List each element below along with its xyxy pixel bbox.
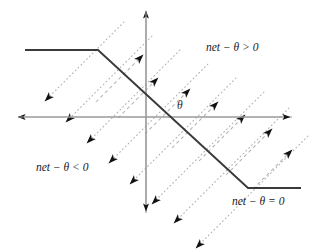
gradient-arrow-dotted [109, 64, 208, 163]
gradient-arrow-dashed [118, 78, 158, 118]
gradient-arrow-dotted [66, 36, 152, 122]
gradient-arrow-dotted [196, 136, 308, 248]
figure-container: net − θ > 0 net − θ < 0 net − θ = 0 θ [0, 0, 323, 249]
gradient-arrows-down-left [45, 22, 308, 248]
gradient-arrow-dashed [96, 55, 143, 102]
gradient-arrow-dashed [199, 115, 245, 161]
gradient-arrow-dashed [253, 150, 292, 189]
label-decision-boundary: net − θ = 0 [232, 196, 284, 208]
gradient-arrow-dashed [226, 129, 272, 175]
label-region-positive: net − θ > 0 [206, 42, 258, 54]
label-threshold-theta: θ [177, 100, 183, 112]
diagram-canvas [0, 0, 323, 249]
label-region-negative: net − θ < 0 [36, 162, 88, 174]
gradient-arrow-dotted [45, 22, 124, 101]
